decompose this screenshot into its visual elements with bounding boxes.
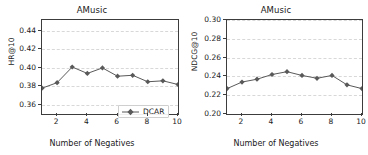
y-tick-mark — [223, 19, 226, 20]
y-tick-mark — [38, 30, 41, 31]
data-point-marker — [100, 65, 105, 70]
grid-line — [227, 114, 362, 115]
y-tick-label: 0.42 — [1, 44, 36, 53]
x-axis-label: Number of Negatives — [184, 139, 368, 148]
y-tick-label: 0.28 — [186, 33, 221, 42]
figure-two-panel-line-charts: AMusic HR@10 Number of Negatives DCAR 0.… — [0, 0, 368, 155]
data-point-marker — [160, 78, 165, 83]
legend-marker-icon — [122, 108, 139, 116]
x-tick-label: 2 — [54, 117, 59, 126]
data-point-marker — [85, 71, 90, 76]
x-tick-mark — [86, 113, 87, 116]
data-point-marker — [284, 69, 289, 74]
x-tick-label: 4 — [269, 117, 274, 126]
x-tick-label: 10 — [356, 117, 366, 126]
y-tick-mark — [223, 94, 226, 95]
x-tick-label: 6 — [114, 117, 119, 126]
plot-area — [41, 19, 179, 115]
y-tick-mark — [223, 57, 226, 58]
data-point-marker — [145, 79, 150, 84]
series-line — [227, 72, 362, 89]
data-point-marker — [254, 77, 259, 82]
y-tick-label: 0.22 — [186, 90, 221, 99]
y-tick-mark — [38, 48, 41, 49]
x-tick-mark — [56, 113, 57, 116]
y-tick-label: 0.20 — [186, 109, 221, 118]
y-tick-label: 0.24 — [186, 71, 221, 80]
x-tick-label: 8 — [144, 117, 149, 126]
data-point-marker — [344, 82, 349, 87]
data-point-marker — [41, 86, 45, 91]
data-point-marker — [269, 72, 274, 77]
y-tick-mark — [223, 113, 226, 114]
x-tick-mark — [117, 113, 118, 116]
series-dcar — [227, 20, 362, 114]
y-tick-label: 0.30 — [186, 15, 221, 24]
panel-hr10: AMusic HR@10 Number of Negatives DCAR 0.… — [0, 0, 184, 155]
series-dcar — [42, 20, 178, 114]
x-tick-mark — [361, 113, 362, 116]
series-line — [42, 67, 178, 88]
x-tick-label: 6 — [299, 117, 304, 126]
data-point-marker — [299, 73, 304, 78]
y-tick-mark — [223, 75, 226, 76]
panel-title: AMusic — [0, 5, 184, 15]
x-tick-label: 10 — [172, 117, 182, 126]
y-tick-label: 0.38 — [1, 81, 36, 90]
data-point-marker — [314, 76, 319, 81]
data-point-marker — [359, 86, 363, 91]
data-point-marker — [130, 73, 135, 78]
panel-title: AMusic — [184, 5, 368, 15]
data-point-marker — [175, 82, 179, 87]
y-tick-label: 0.36 — [1, 99, 36, 108]
data-point-marker — [329, 73, 334, 78]
panel-ndcg10: AMusic NDCG@10 Number of Negatives DCAR … — [184, 0, 368, 155]
x-tick-mark — [331, 113, 332, 116]
x-tick-label: 4 — [84, 117, 89, 126]
x-tick-mark — [177, 113, 178, 116]
x-tick-label: 2 — [239, 117, 244, 126]
data-point-marker — [226, 86, 230, 91]
data-point-marker — [115, 74, 120, 79]
y-tick-label: 0.40 — [1, 62, 36, 71]
y-tick-label: 0.26 — [186, 52, 221, 61]
y-tick-mark — [38, 85, 41, 86]
x-axis-label: Number of Negatives — [0, 139, 184, 148]
y-tick-mark — [38, 67, 41, 68]
plot-area — [226, 19, 363, 115]
y-tick-mark — [38, 104, 41, 105]
y-tick-label: 0.44 — [1, 26, 36, 35]
x-tick-mark — [271, 113, 272, 116]
x-tick-label: 8 — [329, 117, 334, 126]
x-tick-mark — [241, 113, 242, 116]
data-point-marker — [239, 79, 244, 84]
x-tick-mark — [147, 113, 148, 116]
x-tick-mark — [301, 113, 302, 116]
y-tick-mark — [223, 38, 226, 39]
